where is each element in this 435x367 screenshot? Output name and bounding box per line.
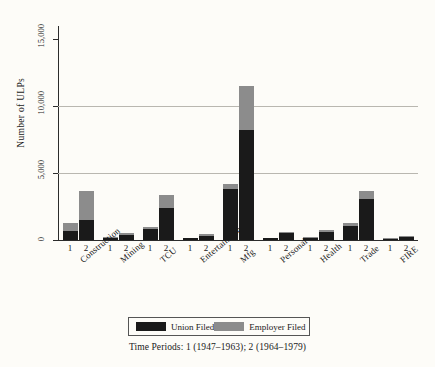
x-tick-label-period-1: 1: [383, 243, 398, 253]
bar: [343, 223, 358, 240]
bar: [63, 223, 78, 240]
bar-segment-employer-filed: [359, 191, 374, 200]
bar-segment-union-filed: [63, 231, 78, 240]
bar: [359, 191, 374, 240]
legend-swatch-union-filed: [136, 322, 166, 331]
bar: [239, 86, 254, 240]
legend-label-union-filed: Union Filed: [171, 322, 214, 332]
bar: [279, 232, 294, 240]
x-tick-label-period-1: 1: [103, 243, 118, 253]
legend-entry-union-filed: Union Filed: [136, 322, 214, 332]
bar-segment-union-filed: [199, 236, 214, 240]
ulp-stacked-bar-chart: Number of ULPs 05,00010,00015,000 Union …: [0, 0, 435, 367]
bar: [79, 191, 94, 240]
bar: [183, 238, 198, 240]
bar: [383, 238, 398, 240]
bar-segment-union-filed: [79, 220, 94, 240]
bar-segment-union-filed: [279, 233, 294, 240]
x-tick-label-period-1: 1: [303, 243, 318, 253]
chart-caption: Time Periods: 1 (1947–1963); 2 (1964–197…: [0, 342, 435, 352]
x-tick-label-period-1: 1: [223, 243, 238, 253]
bar-segment-union-filed: [343, 226, 358, 240]
bar: [143, 227, 158, 240]
x-tick-label-period-1: 1: [263, 243, 278, 253]
bar-segment-union-filed: [143, 229, 158, 240]
bar-segment-union-filed: [183, 238, 198, 240]
legend-swatch-employer-filed: [214, 322, 244, 331]
x-tick-label-period-1: 1: [183, 243, 198, 253]
bar-segment-employer-filed: [79, 191, 94, 220]
bar-segment-union-filed: [399, 237, 414, 240]
bar-segment-union-filed: [263, 238, 278, 240]
legend-entry-employer-filed: Employer Filed: [214, 322, 305, 332]
bar-segment-union-filed: [359, 199, 374, 240]
bar: [399, 236, 414, 240]
chart-legend: Union Filed Employer Filed: [128, 317, 310, 336]
y-tick-label: 0: [36, 237, 46, 241]
bar: [319, 230, 334, 240]
bar-segment-employer-filed: [159, 195, 174, 208]
bar: [119, 233, 134, 240]
bar-segment-employer-filed: [63, 223, 78, 231]
plot-area: [58, 26, 418, 240]
bar: [199, 234, 214, 240]
bar: [159, 195, 174, 240]
y-tick-label: 5,000: [36, 160, 46, 179]
bar-segment-union-filed: [119, 235, 134, 240]
y-tick-label: 15,000: [36, 24, 46, 47]
bar: [263, 238, 278, 240]
bar-segment-union-filed: [159, 208, 174, 240]
bar-segment-union-filed: [319, 232, 334, 240]
y-tick-label: 10,000: [36, 91, 46, 114]
x-tick-label-period-1: 1: [63, 243, 78, 253]
bar-segment-union-filed: [383, 239, 398, 240]
x-tick-label-period-1: 1: [143, 243, 158, 253]
bar-segment-employer-filed: [239, 86, 254, 130]
x-tick-label-period-1: 1: [343, 243, 358, 253]
legend-label-employer-filed: Employer Filed: [249, 322, 305, 332]
